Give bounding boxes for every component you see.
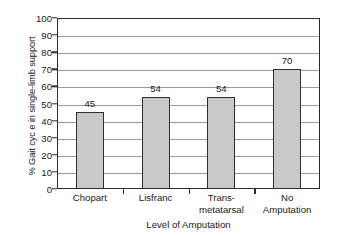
x-tick-mark-3 xyxy=(254,189,255,194)
x-axis-label-line: Chopart xyxy=(73,192,107,204)
y-tick-mark-10 xyxy=(52,171,57,172)
bar-chart: % Gait cyc e in single-limb support 0102… xyxy=(0,0,338,236)
y-axis-tick-80: 80 xyxy=(41,47,52,58)
x-axis-label-line: Trans- xyxy=(199,192,244,204)
x-axis-tick-label-3: NoAmputation xyxy=(263,192,312,215)
y-axis-tick-100: 100 xyxy=(36,13,52,24)
y-tick-mark-70 xyxy=(52,69,57,70)
y-axis-tick-30: 30 xyxy=(41,132,52,143)
y-tick-mark-80 xyxy=(52,51,57,52)
y-axis-tick-50: 50 xyxy=(41,98,52,109)
bar-value-label-1: 54 xyxy=(150,83,161,94)
y-tick-mark-0 xyxy=(52,188,57,189)
x-axis-tick-label-2: Trans-metatarsal xyxy=(199,192,244,215)
x-axis-label-line: Lisfranc xyxy=(139,192,173,204)
y-tick-mark-40 xyxy=(52,120,57,121)
x-tick-mark-1 xyxy=(123,189,124,194)
y-axis-tick-labels: 0102030405060708090100 xyxy=(22,18,52,189)
y-tick-mark-60 xyxy=(52,86,57,87)
y-tick-mark-30 xyxy=(52,137,57,138)
bars-layer: 45545470 xyxy=(57,18,320,189)
y-tick-mark-100 xyxy=(52,17,57,18)
y-axis-tick-90: 90 xyxy=(41,30,52,41)
y-tick-mark-20 xyxy=(52,154,57,155)
y-axis-tick-10: 10 xyxy=(41,166,52,177)
x-axis-label-line: metatarsal xyxy=(199,204,244,216)
bar-lisfranc xyxy=(142,97,170,189)
x-axis-label-line: No xyxy=(263,192,312,204)
bar-value-label-3: 70 xyxy=(282,55,293,66)
bar-no-amputation xyxy=(273,69,301,189)
x-axis-label-line: Amputation xyxy=(263,204,312,216)
y-axis-tick-70: 70 xyxy=(41,64,52,75)
y-axis-tick-60: 60 xyxy=(41,81,52,92)
y-axis-tick-20: 20 xyxy=(41,149,52,160)
x-axis-tick-label-0: Chopart xyxy=(73,192,107,204)
y-tick-mark-50 xyxy=(52,103,57,104)
bar-trans-metatarsal xyxy=(207,97,235,189)
y-tick-mark-90 xyxy=(52,34,57,35)
bar-value-label-2: 54 xyxy=(216,83,227,94)
x-axis-tick-label-1: Lisfranc xyxy=(139,192,173,204)
x-axis-title: Level of Amputation xyxy=(57,219,320,230)
y-axis-tick-40: 40 xyxy=(41,115,52,126)
bar-chopart xyxy=(76,112,104,189)
x-tick-mark-2 xyxy=(189,189,190,194)
bar-value-label-0: 45 xyxy=(85,98,96,109)
x-axis-tick-labels: ChopartLisfrancTrans-metatarsalNoAmputat… xyxy=(57,192,320,222)
